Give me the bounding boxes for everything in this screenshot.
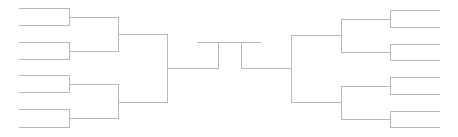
right-round2-slot <box>341 86 391 87</box>
right-round3-slot <box>291 35 342 36</box>
left-round1-slot <box>19 8 70 9</box>
right-round1-slot <box>390 111 440 112</box>
left-round1-slot <box>19 92 70 93</box>
right-round1-slot <box>390 27 440 28</box>
left-round1-slot <box>19 42 70 43</box>
final-left-connector <box>218 42 219 69</box>
right-round1-slot <box>390 77 440 78</box>
right-round1-slot <box>390 127 440 128</box>
right-round1-slot <box>390 44 440 45</box>
right-round3-connector <box>291 35 292 103</box>
left-round2-slot <box>69 17 119 18</box>
left-round1-slot <box>19 75 70 76</box>
left-round3-slot <box>118 34 168 35</box>
left-round2-slot <box>69 84 119 85</box>
left-round1-slot <box>19 59 70 60</box>
left-round2-slot <box>69 118 119 119</box>
final-slot <box>197 42 261 43</box>
right-round2-slot <box>341 52 391 53</box>
right-round2-slot <box>341 19 391 20</box>
right-round3-slot <box>291 102 342 103</box>
right-round1-slot <box>390 60 440 61</box>
left-round3-slot <box>118 102 168 103</box>
right-semifinal-slot <box>241 68 292 69</box>
tournament-bracket <box>0 0 458 137</box>
left-round1-slot <box>19 109 70 110</box>
final-right-connector <box>241 42 242 69</box>
right-round1-slot <box>390 94 440 95</box>
left-round1-slot <box>19 25 70 26</box>
left-round1-slot <box>19 127 70 128</box>
right-round2-connector <box>341 19 342 53</box>
left-semifinal-slot <box>167 68 219 69</box>
left-round2-slot <box>69 51 119 52</box>
right-round1-slot <box>390 10 440 11</box>
right-round2-connector <box>341 86 342 120</box>
right-round2-slot <box>341 119 391 120</box>
